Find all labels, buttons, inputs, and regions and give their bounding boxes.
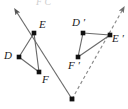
vertex-label-F: F [42,74,49,85]
vertex-label-E-prime: E ′ [112,33,124,44]
geometry-dilation-figure: F C E D [0,0,128,109]
vertex-label-E: E [39,19,46,30]
vertex-dot-Dp [81,31,86,36]
vertex-dot-D [17,55,22,60]
figure-canvas [0,0,128,109]
center-of-dilation-dot [70,97,75,102]
vertex-label-D: D [4,50,12,61]
triangle-dpepfp [78,33,110,57]
vertex-dot-E [32,31,37,36]
vertex-label-D-prime: D ′ [72,17,85,28]
vertex-dot-F [37,70,42,75]
triangle-def [19,33,39,72]
vertex-label-F-prime: F ′ [68,60,80,71]
rays-group [16,9,123,99]
